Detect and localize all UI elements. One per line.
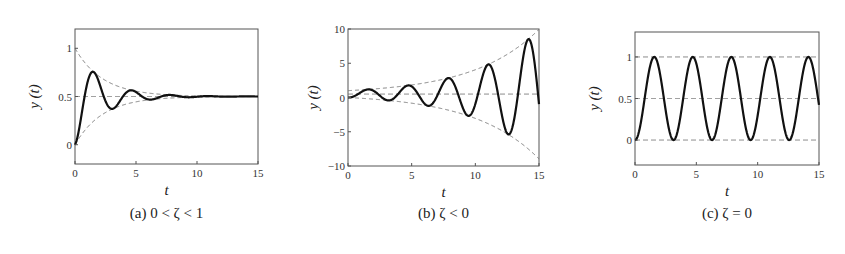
x-tick-label: 15 <box>534 169 546 181</box>
y-axis-label-c: y (t) <box>586 86 603 113</box>
panel-a: 05101500.51 t y (t) (a) 0 < ζ < 1 <box>26 29 264 222</box>
caption-c: (c) ζ = 0 <box>702 205 752 222</box>
y-axis-label-a: y (t) <box>26 84 43 111</box>
x-axis-label-b: t <box>441 184 446 200</box>
caption-b: (b) ζ < 0 <box>418 205 469 222</box>
tick-labels-a: 05101500.51 <box>58 42 264 179</box>
y-tick-label: 1 <box>627 51 633 63</box>
y-tick-label: 0 <box>340 92 346 104</box>
tick-labels-b: 051015−10−50510 <box>328 23 545 181</box>
x-tick-label: 0 <box>345 169 351 181</box>
lower-envelope-line <box>348 98 539 159</box>
y-tick-label: 0 <box>627 134 633 146</box>
x-tick-label: 5 <box>133 167 139 179</box>
y-tick-label: 0.5 <box>618 93 632 105</box>
lower-envelope-line <box>75 97 258 145</box>
x-tick-label: 0 <box>632 168 638 180</box>
x-tick-label: 10 <box>752 168 764 180</box>
x-tick-label: 10 <box>192 167 204 179</box>
figure: 05101500.51 t y (t) (a) 0 < ζ < 1 051015… <box>0 0 845 254</box>
y-tick-label: 0.5 <box>58 91 72 103</box>
x-tick-label: 10 <box>470 169 482 181</box>
y-tick-label: 5 <box>340 57 346 69</box>
response-curve-a <box>75 72 258 145</box>
x-axis-label-a: t <box>164 182 169 198</box>
x-tick-label: 15 <box>814 168 826 180</box>
y-tick-label: 1 <box>67 42 73 54</box>
response-curve-b <box>348 39 539 134</box>
x-axis-label-c: t <box>725 183 730 199</box>
y-tick-label: −10 <box>328 160 346 172</box>
caption-a: (a) 0 < ζ < 1 <box>130 205 204 222</box>
y-tick-label: 0 <box>67 139 73 151</box>
y-tick-label: −5 <box>333 126 345 138</box>
plot-frame-b <box>348 29 539 166</box>
x-tick-label: 5 <box>409 169 415 181</box>
y-axis-label-b: y (t) <box>305 85 322 112</box>
x-tick-label: 5 <box>694 168 700 180</box>
x-tick-label: 0 <box>72 167 78 179</box>
panel-b: 051015−10−50510 t y (t) (b) ζ < 0 <box>305 23 545 222</box>
y-tick-label: 10 <box>334 23 346 35</box>
panel-c: 05101500.51 t y (t) (c) ζ = 0 <box>586 32 825 222</box>
x-tick-label: 15 <box>253 167 265 179</box>
